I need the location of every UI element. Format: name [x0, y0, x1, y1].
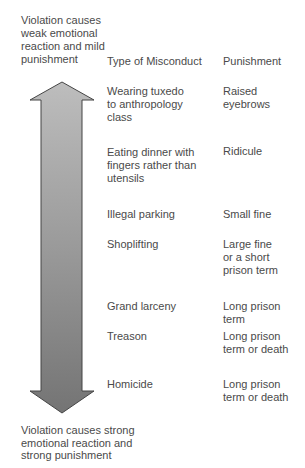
misconduct-text: Shoplifting: [107, 238, 217, 251]
misconduct-text: Treason: [107, 330, 217, 343]
punishment-text: Long prison term: [223, 300, 303, 326]
misconduct-text: Wearing tuxedo to anthropology class: [107, 85, 217, 124]
misconduct-text: Grand larceny: [107, 300, 217, 313]
punishment-text: Large fine or a short prison term: [223, 238, 303, 277]
punishment-text: Raised eyebrows: [223, 85, 303, 111]
misconduct-text: Homicide: [107, 378, 217, 391]
weak-reaction-label: Violation causes weak emotional reaction…: [21, 14, 121, 66]
punishment-text: Long prison term or death: [223, 330, 303, 356]
punishment-column-header: Punishment: [223, 55, 281, 68]
punishment-text: Long prison term or death: [223, 378, 303, 404]
misconduct-text: Illegal parking: [107, 208, 217, 221]
misconduct-column-header: Type of Misconduct: [107, 55, 202, 68]
misconduct-text: Eating dinner with fingers rather than u…: [107, 146, 217, 185]
punishment-text: Ridicule: [223, 145, 303, 158]
punishment-text: Small fine: [223, 208, 303, 221]
strong-reaction-label: Violation causes strong emotional reacti…: [21, 424, 161, 462]
